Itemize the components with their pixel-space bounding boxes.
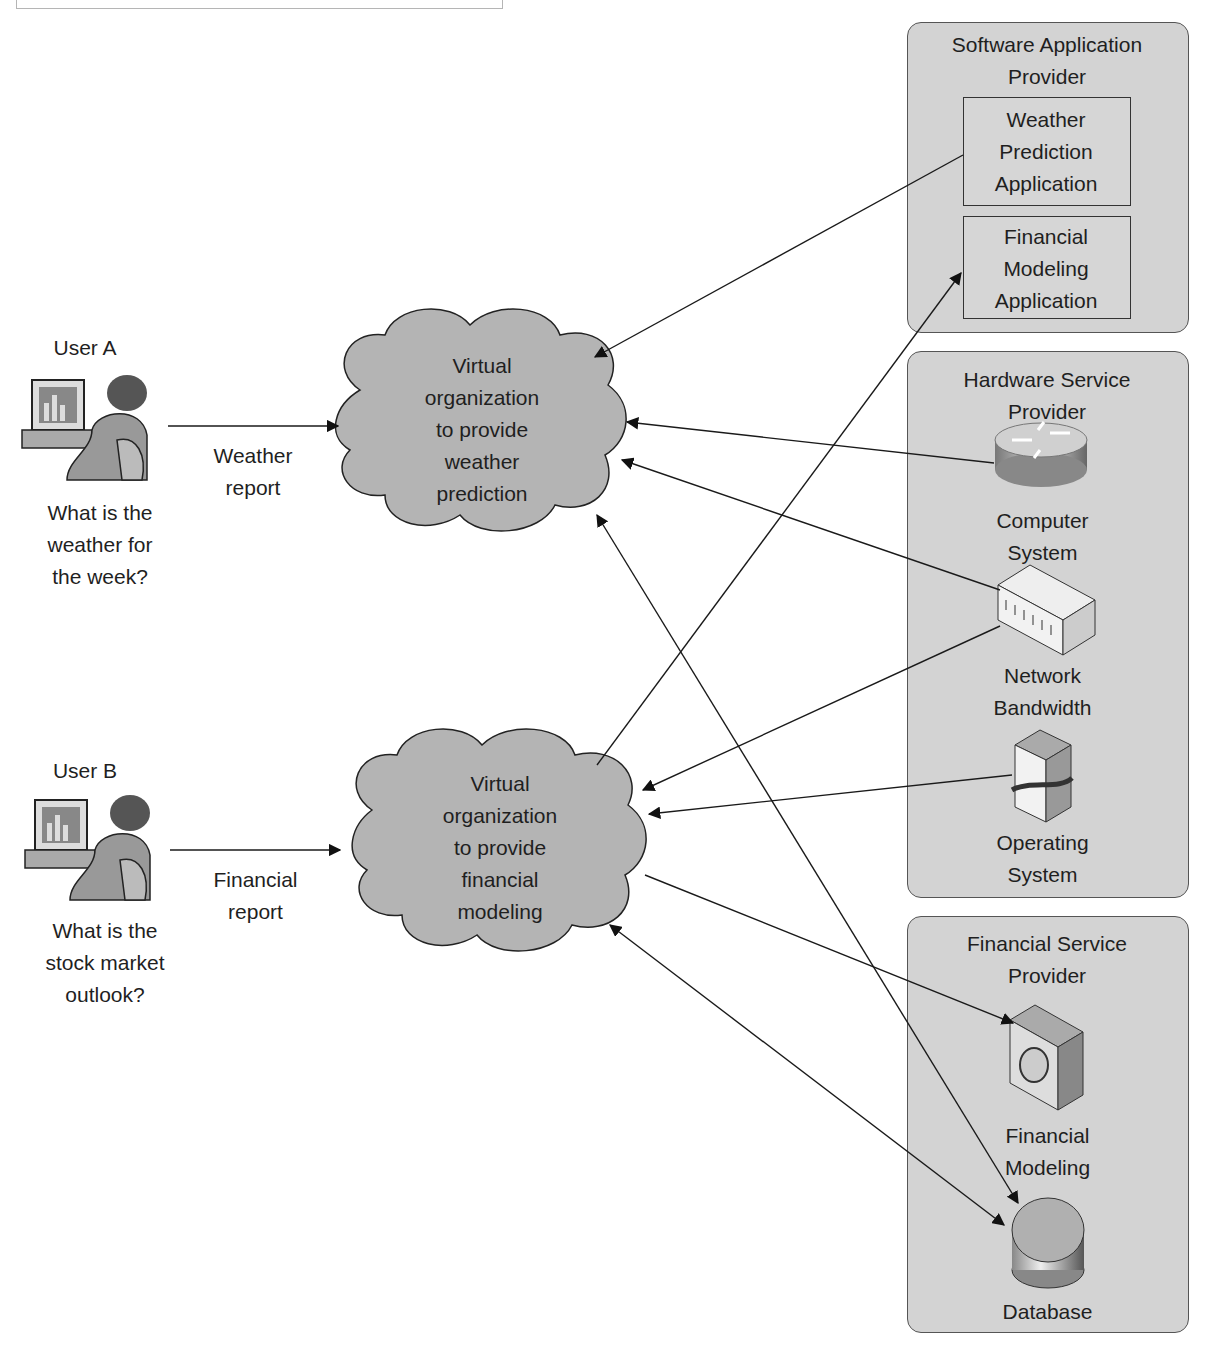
weather-app-label: Weather Prediction Application (963, 104, 1129, 200)
financial-provider-title: Financial Service Provider (907, 928, 1187, 992)
arrow-financial-cloud-to-financial-app (597, 273, 961, 765)
user-a-question: What is the weather for the week? (20, 497, 180, 593)
router-icon (995, 422, 1087, 487)
arrow-computer-to-weather-cloud (627, 422, 994, 463)
network-bandwidth-label: Network Bandwidth (960, 660, 1125, 724)
user-b-computer-icon (25, 795, 150, 900)
network-switch-icon (998, 565, 1095, 655)
arrow-weather-cloud-to-database (597, 515, 1018, 1203)
software-provider-title: Software Application Provider (907, 29, 1187, 93)
user-b-question: What is the stock market outlook? (20, 915, 190, 1011)
financial-modeling-label: Financial Modeling (965, 1120, 1130, 1184)
financial-modeling-server-icon (1010, 1005, 1083, 1110)
arrow-network-to-weather-cloud (622, 460, 1000, 590)
user-a-computer-icon (22, 375, 147, 480)
user-a-request-label: Weather report (193, 440, 313, 504)
operating-system-icon (1012, 730, 1072, 822)
arrow-network-to-financial-cloud (643, 626, 1000, 790)
financial-app-label: Financial Modeling Application (963, 221, 1129, 317)
operating-system-label: Operating System (960, 827, 1125, 891)
arrow-os-to-financial-cloud (649, 775, 1012, 814)
financial-cloud-label: Virtual organization to provide financia… (420, 768, 580, 928)
connection-arrows (168, 155, 1018, 1225)
user-a-name: User A (30, 332, 140, 364)
weather-cloud-label: Virtual organization to provide weather … (402, 350, 562, 510)
hardware-provider-title: Hardware Service Provider (907, 364, 1187, 428)
user-b-request-label: Financial report (193, 864, 318, 928)
arrow-weather-app-to-cloud (595, 155, 963, 357)
database-icon (1012, 1198, 1084, 1288)
computer-system-label: Computer System (960, 505, 1125, 569)
user-b-name: User B (30, 755, 140, 787)
database-label: Database (965, 1296, 1130, 1328)
